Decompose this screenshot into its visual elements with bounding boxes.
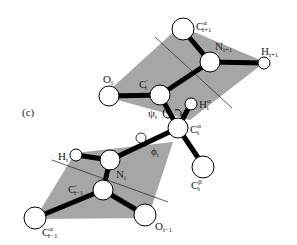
label-C-beta-i: Cβi: [191, 178, 202, 193]
atom-N-i: [100, 150, 120, 170]
atom-C-beta-i: [192, 156, 214, 178]
phi-marker-circle: [136, 133, 146, 143]
label-H-alpha-i: Hαi: [199, 97, 211, 112]
label-C-alpha-i-1: Cαi−1: [42, 225, 58, 240]
label-H-i: Hi: [58, 150, 68, 164]
atom-O-i: [99, 86, 119, 106]
diagram-canvas: (c) Oi C′i Cαi+1 Ni+1 Hi+1 Hαi Cαi Cβi H…: [0, 0, 297, 245]
atom-C-alpha-i: [168, 118, 188, 138]
atom-C-alpha-i+1: [172, 18, 194, 40]
atom-C-prime-i-1: [93, 180, 113, 200]
atom-C-prime-i: [150, 85, 170, 105]
atom-O-i-1: [134, 204, 156, 226]
label-C-alpha-i+1: Cαi+1: [196, 19, 212, 34]
label-O-i: Oi: [103, 73, 113, 87]
label-O-i-1: Oi−1: [155, 220, 173, 234]
panel-label: (c): [22, 106, 35, 119]
label-N-i+1: Ni+1: [215, 40, 233, 54]
label-H-i+1: Hi+1: [261, 45, 279, 59]
atom-H-i: [70, 149, 82, 161]
atom-H-alpha-i: [185, 98, 197, 110]
atom-N-i+1: [200, 52, 220, 72]
label-C-alpha-i: Cαi: [190, 122, 201, 137]
peptide-backbone-diagram: (c) Oi C′i Cαi+1 Ni+1 Hi+1 Hαi Cαi Cβi H…: [0, 0, 297, 245]
